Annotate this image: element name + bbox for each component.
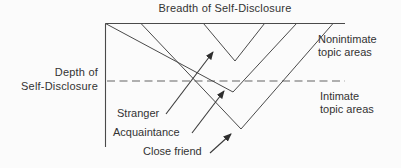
depth-axis-title: Depth of Self-Disclosure [0,66,98,93]
acquaintance-arrow-icon [192,91,224,133]
intimate-region-label-line1: Intimate [320,90,374,103]
nonintimate-region-label-line2: topic areas [318,46,377,59]
social-penetration-diagram: Breadth of Self-Disclosure Depth of Self… [0,0,401,168]
close-friend-arrow-icon [210,134,231,153]
nonintimate-region-label-line1: Nonintimate [318,33,377,46]
acquaintance-label: Acquaintance [113,126,180,139]
breadth-axis-title: Breadth of Self-Disclosure [105,2,345,15]
stranger-label: Stranger [117,107,159,120]
depth-axis-title-line1: Depth of [0,66,98,80]
stranger-arrow-icon [166,52,213,114]
stranger-wedge [204,24,265,62]
nonintimate-region-label: Nonintimate topic areas [318,33,377,59]
close-friend-label: Close friend [143,145,202,158]
acquaintance-wedge [106,24,297,93]
intimate-region-label: Intimate topic areas [320,90,374,116]
intimate-region-label-line2: topic areas [320,103,374,116]
close-friend-wedge [141,24,333,130]
depth-axis-title-line2: Self-Disclosure [0,80,98,94]
